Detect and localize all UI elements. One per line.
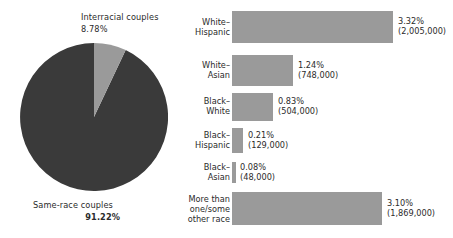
- bar-value-label: 3.10% (1,869,000): [387, 198, 435, 218]
- bar-value-label: 0.08% (48,000): [240, 162, 275, 182]
- bar-value-label: 1.24% (748,000): [298, 60, 338, 80]
- bar-value-percent: 3.32%: [398, 16, 446, 26]
- bar-category-line2: Asian: [178, 173, 230, 183]
- bar-value-count: (748,000): [298, 70, 338, 80]
- figure-root: Interracial couples 8.78% Same-race coup…: [0, 0, 453, 238]
- bar-category-label: Black– Asian: [178, 163, 230, 183]
- bar-value-percent: 0.83%: [278, 96, 318, 106]
- bar-row: White– Hispanic 3.32% (2,005,000): [195, 11, 453, 43]
- bar-category-line3: other race: [178, 215, 230, 225]
- bar-value-percent: 0.08%: [240, 162, 275, 172]
- bar-category-label: White– Hispanic: [178, 18, 230, 38]
- bar-value-count: (1,869,000): [387, 208, 435, 218]
- bar-value-percent: 1.24%: [298, 60, 338, 70]
- bar-category-label: Black– Hispanic: [178, 131, 230, 151]
- bar-value-label: 0.83% (504,000): [278, 96, 318, 116]
- bar-rect: [232, 11, 393, 43]
- pie-label-same-race: Same-race couples 91.22%: [8, 200, 138, 223]
- pie-chart: [20, 43, 168, 191]
- bar-category-label: Black– White: [178, 97, 230, 117]
- bar-category-label: More than one/some other race: [178, 195, 230, 224]
- bar-rect: [232, 192, 382, 225]
- bar-value-count: (129,000): [248, 140, 288, 150]
- bar-row: Black– Asian 0.08% (48,000): [195, 162, 453, 183]
- bar-rect: [232, 128, 243, 153]
- bar-chart-panel: White– Hispanic 3.32% (2,005,000) White–…: [195, 0, 453, 238]
- pie-label-interracial: Interracial couples 8.78%: [81, 12, 159, 35]
- bar-value-label: 0.21% (129,000): [248, 130, 288, 150]
- bar-value-percent: 0.21%: [248, 130, 288, 140]
- bar-category-line2: White: [178, 107, 230, 117]
- bar-row: Black– Hispanic 0.21% (129,000): [195, 128, 453, 153]
- bar-rect: [232, 55, 293, 86]
- pie-chart-panel: Interracial couples 8.78% Same-race coup…: [0, 0, 195, 238]
- pie-label-interracial-text: Interracial couples: [81, 12, 159, 22]
- bar-value-count: (48,000): [240, 172, 275, 182]
- bar-category-label: White– Asian: [178, 61, 230, 81]
- bar-value-label: 3.32% (2,005,000): [398, 16, 446, 36]
- bar-category-line2: Hispanic: [178, 141, 230, 151]
- bar-value-percent: 3.10%: [387, 198, 435, 208]
- pie-label-same-race-value: 91.22%: [8, 212, 138, 224]
- bar-rect: [232, 93, 273, 121]
- bar-row: Black– White 0.83% (504,000): [195, 93, 453, 121]
- pie-label-same-race-text: Same-race couples: [33, 200, 113, 210]
- bar-category-line2: Hispanic: [178, 28, 230, 38]
- bar-row: More than one/some other race 3.10% (1,8…: [195, 192, 453, 225]
- bar-rect: [232, 162, 236, 183]
- bar-category-line2: Asian: [178, 71, 230, 81]
- bar-value-count: (504,000): [278, 106, 318, 116]
- pie-label-interracial-value: 8.78%: [81, 24, 159, 36]
- bar-row: White– Asian 1.24% (748,000): [195, 55, 453, 86]
- bar-value-count: (2,005,000): [398, 26, 446, 36]
